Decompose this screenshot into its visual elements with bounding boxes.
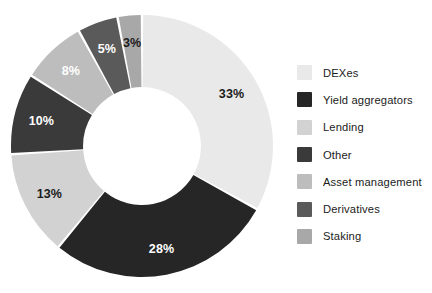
legend-item-yield-aggregators[interactable]: Yield aggregators: [297, 86, 429, 113]
donut-slice-label: 5%: [98, 42, 116, 56]
donut-slice[interactable]: [143, 15, 273, 208]
legend-item-staking[interactable]: Staking: [297, 223, 429, 250]
donut-slice-label: 33%: [219, 87, 244, 101]
donut-chart-svg: 33%28%13%10%8%5%3%: [10, 14, 274, 278]
legend-swatch-icon: [297, 92, 312, 107]
legend-item-label: Derivatives: [323, 203, 380, 215]
legend-item-label: Lending: [323, 121, 364, 133]
chart-legend: DEXesYield aggregatorsLendingOtherAsset …: [297, 59, 429, 250]
legend-item-label: Yield aggregators: [323, 94, 413, 106]
legend-swatch-icon: [297, 202, 312, 217]
legend-swatch-icon: [297, 120, 312, 135]
donut-slice-label: 13%: [37, 187, 62, 201]
legend-item-lending[interactable]: Lending: [297, 114, 429, 141]
donut-slice-label: 28%: [149, 242, 174, 256]
legend-swatch-icon: [297, 229, 312, 244]
legend-item-other[interactable]: Other: [297, 141, 429, 168]
legend-swatch-icon: [297, 65, 312, 80]
legend-item-label: Asset management: [323, 176, 422, 188]
legend-item-dexes[interactable]: DEXes: [297, 59, 429, 86]
legend-item-label: Other: [323, 149, 352, 161]
donut-slice-label: 10%: [29, 114, 54, 128]
donut-slice-label: 8%: [62, 64, 80, 78]
legend-item-label: Staking: [323, 230, 361, 242]
donut-slice-group: [11, 15, 273, 277]
legend-item-derivatives[interactable]: Derivatives: [297, 195, 429, 222]
legend-item-asset-management[interactable]: Asset management: [297, 168, 429, 195]
donut-chart: 33%28%13%10%8%5%3%: [10, 14, 274, 278]
legend-swatch-icon: [297, 147, 312, 162]
legend-item-label: DEXes: [323, 67, 359, 79]
chart-page: 33%28%13%10%8%5%3% DEXesYield aggregator…: [0, 0, 432, 293]
donut-slice-label: 3%: [123, 36, 141, 50]
legend-swatch-icon: [297, 174, 312, 189]
